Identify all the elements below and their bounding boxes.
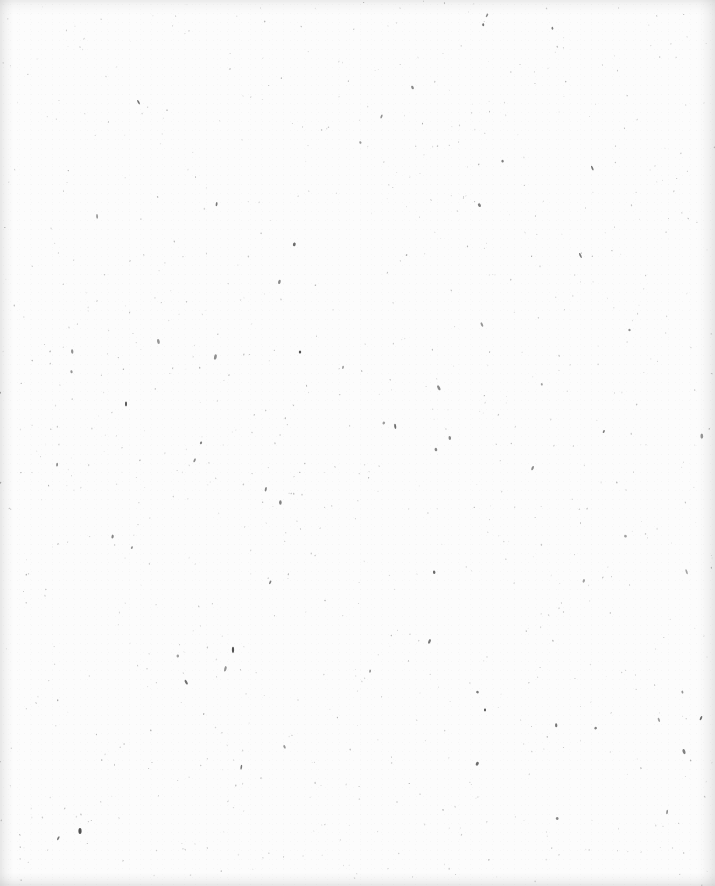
- paper-speckles: [0, 0, 715, 886]
- blank-scanned-page: blank scanned page: [0, 0, 715, 886]
